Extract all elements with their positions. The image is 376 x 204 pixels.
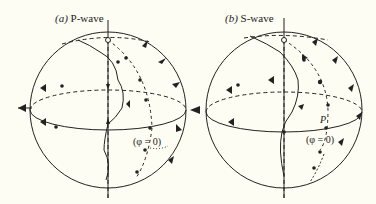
phi-zero-annotation: (φ = 0) bbox=[306, 134, 334, 145]
panel-title-text: P-wave bbox=[71, 12, 104, 24]
panel-title: (a) P-wave bbox=[55, 12, 104, 24]
panel-label: (a) bbox=[55, 12, 68, 24]
panel-s-wave: (b) S-wave P (φ = 0) bbox=[188, 0, 376, 204]
panel-title-text: S-wave bbox=[241, 12, 274, 24]
arrow-left-icon bbox=[190, 106, 200, 114]
point-p-label: P bbox=[320, 114, 326, 125]
arrow-left-icon bbox=[18, 104, 26, 112]
panel-label: (b) bbox=[225, 12, 238, 24]
p-wave-sphere-diagram bbox=[0, 0, 188, 204]
panel-title: (b) S-wave bbox=[225, 12, 274, 24]
panel-p-wave: (a) P-wave (φ = 0) bbox=[0, 0, 188, 204]
s-wave-sphere-diagram bbox=[188, 0, 376, 204]
phi-zero-annotation: (φ = 0) bbox=[133, 136, 161, 147]
